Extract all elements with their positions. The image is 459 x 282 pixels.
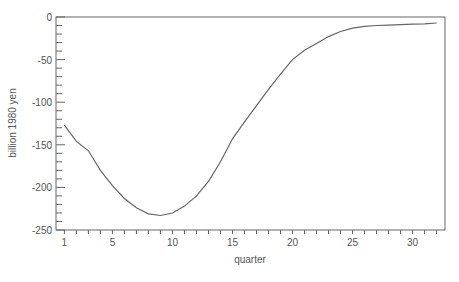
x-axis: 151015202530 — [62, 230, 437, 248]
x-tick-label: 1 — [62, 237, 68, 248]
x-tick-label: 25 — [347, 237, 359, 248]
y-tick-label: -150 — [32, 140, 52, 151]
x-tick-label: 5 — [110, 237, 116, 248]
x-tick-label: 30 — [407, 237, 419, 248]
x-axis-title: quarter — [234, 254, 266, 265]
x-tick-label: 10 — [167, 237, 179, 248]
y-tick-label: -100 — [32, 97, 52, 108]
y-axis: 0-50-100-150-200-250 — [32, 12, 65, 236]
y-tick-label: -250 — [32, 225, 52, 236]
y-tick-label: 0 — [46, 12, 52, 23]
x-tick-label: 20 — [287, 237, 299, 248]
series-line — [64, 23, 436, 216]
y-axis-title: billion 1980 yen — [7, 88, 18, 158]
line-chart: 0-50-100-150-200-250 151015202530 quarte… — [0, 0, 459, 282]
plot-frame — [56, 17, 445, 230]
x-tick-label: 15 — [227, 237, 239, 248]
y-tick-label: -200 — [32, 182, 52, 193]
y-tick-label: -50 — [38, 55, 53, 66]
